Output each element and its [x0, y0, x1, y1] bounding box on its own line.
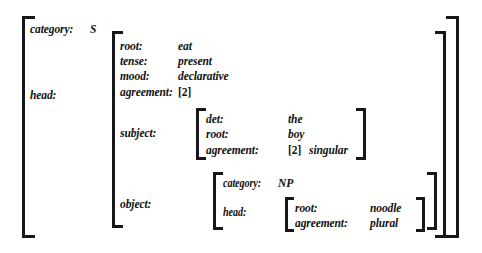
bracket-arm-bottom — [213, 227, 223, 230]
value-head-agreement-tag: [2] — [178, 87, 191, 99]
value-head-root-feature: eat — [178, 41, 192, 53]
bracket-arm-bottom — [112, 225, 123, 228]
bracket-arm-top — [112, 31, 123, 34]
subject-right-bracket — [356, 108, 366, 160]
bracket-arm-bottom — [356, 157, 366, 160]
attr-head-tense: tense: — [120, 56, 148, 68]
bracket-arm-bottom — [427, 227, 437, 230]
outer-left-bracket — [22, 16, 35, 238]
value-object-head-root: noodle — [370, 203, 401, 215]
bracket-arm-top — [22, 16, 35, 19]
attr-subject-det: det: — [206, 114, 223, 126]
bracket-arm-top — [213, 172, 223, 175]
bracket-arm-bottom — [22, 235, 35, 238]
attr-head-root-feature: root: — [120, 41, 143, 53]
bracket-spine — [456, 16, 459, 238]
attr-head-subject: subject: — [120, 128, 156, 140]
bracket-spine — [434, 172, 437, 230]
attr-object-category: category: — [223, 178, 261, 190]
bracket-spine — [285, 197, 288, 232]
bracket-arm-top — [416, 197, 425, 200]
bracket-arm-top — [427, 172, 437, 175]
avm-diagram: category: S head: root: eat tense: prese… — [0, 0, 482, 253]
bracket-arm-bottom — [435, 235, 446, 238]
bracket-arm-top — [435, 31, 446, 34]
bracket-spine — [196, 108, 199, 160]
attr-subject-root: root: — [206, 129, 229, 141]
bracket-arm-bottom — [416, 229, 425, 232]
object-head-left-bracket — [285, 197, 294, 232]
bracket-spine — [22, 16, 25, 238]
value-subject-agreement-tag: [2] — [288, 145, 301, 157]
attr-category-root: category: — [30, 24, 73, 36]
bracket-spine — [363, 108, 366, 160]
object-head-right-bracket — [416, 197, 425, 232]
bracket-spine — [422, 197, 425, 232]
bracket-arm-top — [285, 197, 294, 200]
attr-head-mood: mood: — [120, 71, 150, 83]
value-head-mood: declarative — [178, 71, 229, 83]
bracket-arm-bottom — [196, 157, 206, 160]
bracket-arm-top — [446, 16, 459, 19]
subject-left-bracket — [196, 108, 206, 160]
bracket-spine — [443, 31, 446, 238]
attr-head-root: head: — [30, 90, 56, 102]
object-right-bracket — [427, 172, 437, 230]
value-subject-agreement: singular — [309, 145, 348, 157]
value-category-root: S — [90, 24, 96, 36]
value-subject-det: the — [288, 114, 302, 126]
bracket-arm-bottom — [285, 229, 294, 232]
attr-object-head-root: root: — [295, 203, 318, 215]
bracket-arm-top — [356, 108, 366, 111]
value-subject-root: boy — [288, 129, 304, 141]
value-object-head-agreement: plural — [370, 218, 398, 230]
bracket-arm-bottom — [446, 235, 459, 238]
bracket-spine — [112, 31, 115, 228]
object-left-bracket — [213, 172, 223, 230]
value-object-category: NP — [278, 178, 293, 190]
bracket-arm-top — [196, 108, 206, 111]
attr-head-object: object: — [120, 199, 151, 211]
attr-object-head-agreement: agreement: — [295, 218, 348, 230]
attr-object-head: head: — [223, 207, 246, 219]
value-head-tense: present — [178, 56, 212, 68]
outer-right-bracket — [446, 16, 459, 238]
attr-head-agreement: agreement: — [120, 87, 173, 99]
attr-subject-agreement: agreement: — [206, 145, 259, 157]
bracket-spine — [213, 172, 216, 230]
